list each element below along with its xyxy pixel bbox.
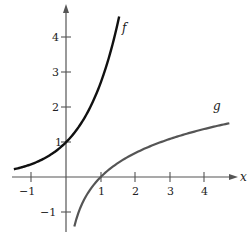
x-tick-label: 2 [132,185,139,198]
x-tick-label: −1 [19,185,35,198]
curve-g [74,123,229,226]
x-axis-label: x [240,170,247,184]
y-tick-label: 4 [52,31,59,44]
x-axis-arrow-icon [229,174,238,180]
y-tick-label: 2 [52,101,59,114]
x-tick-label: 3 [167,185,174,198]
y-axis-arrow-icon [63,4,69,13]
function-graph: x −1 1 2 3 4 4 3 2 1 −1 f g [0,0,247,238]
curve-f-label: f [121,21,129,35]
x-tick-label: 1 [98,185,105,198]
x-axis: x [12,170,247,184]
y-tick-label: −1 [40,206,56,219]
y-axis [63,4,69,232]
curve-g-label: g [213,99,221,113]
y-tick-label: 3 [52,66,59,79]
x-tick-label: 4 [201,185,208,198]
